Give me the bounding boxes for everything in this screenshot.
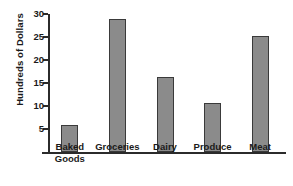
plot-area: 51015202530 (48, 14, 286, 152)
y-tick-label: 5 (39, 123, 44, 134)
y-axis-line (48, 14, 50, 152)
y-tick-label: 10 (33, 100, 44, 111)
y-tick-label: 15 (33, 77, 44, 88)
y-tick-label: 30 (33, 8, 44, 19)
bar (109, 19, 126, 152)
x-axis-label: Meat (220, 141, 293, 153)
y-tick-label: 25 (33, 31, 44, 42)
y-axis-title: Hundreds of Dollars (14, 0, 25, 125)
y-tick-label: 20 (33, 54, 44, 65)
bar-chart: Hundreds of Dollars 51015202530 Baked Go… (0, 0, 293, 186)
bar (252, 36, 269, 152)
